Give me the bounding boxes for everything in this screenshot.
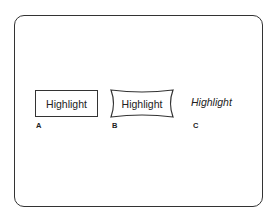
highlight-text-a: Highlight bbox=[46, 98, 87, 110]
highlight-text-b: Highlight bbox=[110, 89, 174, 118]
label-b: B bbox=[112, 121, 117, 130]
label-a: A bbox=[36, 121, 41, 130]
highlight-box-a: Highlight bbox=[35, 90, 98, 117]
highlight-text-c: Highlight bbox=[191, 96, 232, 108]
highlight-box-b: Highlight bbox=[110, 89, 174, 118]
label-c: C bbox=[193, 121, 198, 130]
